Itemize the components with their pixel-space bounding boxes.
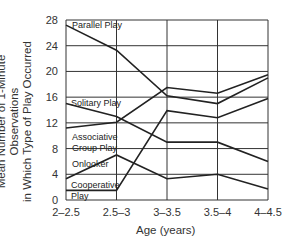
y-tick-label: 8: [52, 143, 58, 155]
x-tick-label: 3–3.5: [153, 206, 181, 218]
x-axis-ticks: 2–2.52.5–33–3.53.5–44–4.5: [52, 206, 282, 218]
y-tick-label: 24: [46, 40, 58, 52]
series-annotation: Associative: [72, 132, 118, 142]
series-annotation: Onlooker: [72, 159, 109, 169]
y-axis-label-line2: in Which Type of Play Occurred: [21, 32, 34, 212]
x-tick-label: 3.5–4: [204, 206, 232, 218]
y-axis-ticks: 0481216202428: [46, 14, 58, 206]
y-axis-label-line1: Mean Number of 1-Minute Observations: [0, 32, 21, 212]
y-tick-label: 16: [46, 91, 58, 103]
series-annotation: Cooperative: [71, 180, 120, 190]
line-chart: 0481216202428 2–2.52.5–33–3.53.5–44–4.5 …: [0, 0, 292, 249]
y-tick-label: 0: [52, 194, 58, 206]
y-tick-label: 28: [46, 14, 58, 26]
series-annotation: Solitary Play: [71, 98, 122, 108]
x-axis-label: Age (years): [136, 224, 195, 236]
series-annotation: Play: [71, 191, 89, 201]
y-tick-label: 20: [46, 65, 58, 77]
series-annotation: Parallel Play: [72, 20, 123, 30]
x-tick-label: 2–2.5: [52, 206, 80, 218]
y-tick-label: 4: [52, 168, 58, 180]
y-tick-label: 12: [46, 117, 58, 129]
series-annotation: Group Play: [72, 143, 118, 153]
x-tick-label: 2.5–3: [103, 206, 131, 218]
x-tick-label: 4–4.5: [254, 206, 282, 218]
y-axis-label: Mean Number of 1-Minute Observations in …: [0, 32, 34, 212]
